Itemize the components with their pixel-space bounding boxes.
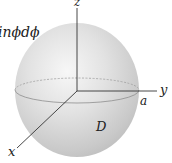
x-axis-label: x	[8, 145, 15, 158]
region-label: D	[96, 120, 106, 133]
z-axis-label: z	[74, 0, 80, 8]
y-axis-label: y	[160, 83, 167, 96]
radius-label: a	[140, 95, 147, 107]
formula-fragment: inϕdϕ	[0, 25, 40, 39]
